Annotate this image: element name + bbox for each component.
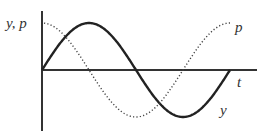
y-curve-label: y xyxy=(218,102,227,118)
y-axis-label: y, p xyxy=(4,15,27,31)
p-curve-label: p xyxy=(234,19,243,35)
t-axis-label: t xyxy=(237,74,242,90)
wave-diagram: y, p t y p xyxy=(0,0,273,137)
